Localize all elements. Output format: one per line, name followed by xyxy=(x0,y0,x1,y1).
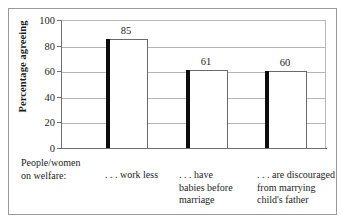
bar-edge-3 xyxy=(265,71,269,148)
y-tick-mark-60 xyxy=(57,71,61,72)
category-stem-label: People/women on welfare: xyxy=(21,157,80,182)
y-tick-mark-100 xyxy=(57,20,61,21)
y-tick-label-40: 40 xyxy=(9,91,55,102)
y-tick-mark-20 xyxy=(57,122,61,123)
y-tick-mark-40 xyxy=(57,97,61,98)
category-caption-2: . . . have babies before marriage xyxy=(179,169,233,207)
bar-value-1: 85 xyxy=(97,25,155,36)
gridline-80 xyxy=(62,47,325,48)
bar-edge-1 xyxy=(106,39,110,148)
y-tick-mark-80 xyxy=(57,46,61,47)
bar-value-2: 61 xyxy=(177,56,235,67)
y-tick-mark-0 xyxy=(57,148,61,149)
y-tick-label-80: 80 xyxy=(9,40,55,51)
category-caption-3: . . . are discouraged from marrying chil… xyxy=(257,169,335,207)
category-caption-1: . . . work less xyxy=(105,169,158,182)
bar-2 xyxy=(186,70,228,148)
bar-value-3: 60 xyxy=(256,57,314,68)
chart-frame: Percentage agreeing 020406080100 856160 … xyxy=(8,8,337,215)
bar-edge-2 xyxy=(186,70,190,148)
y-tick-label-100: 100 xyxy=(9,15,55,26)
bar-3 xyxy=(265,71,307,148)
bar-1 xyxy=(106,39,148,148)
y-tick-label-60: 60 xyxy=(9,66,55,77)
y-tick-label-0: 0 xyxy=(9,143,55,154)
plot-area xyxy=(61,20,326,148)
y-tick-label-20: 20 xyxy=(9,117,55,128)
x-axis-line xyxy=(61,148,327,149)
